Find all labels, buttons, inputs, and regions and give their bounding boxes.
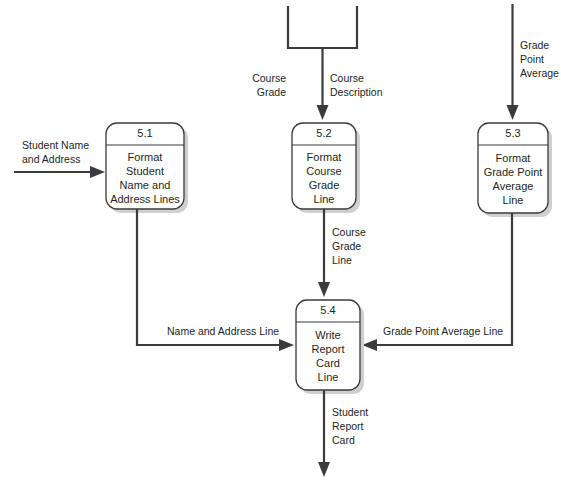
flow-label-grade-point-average: Grade Point Average: [520, 39, 559, 79]
process-5-4[interactable]: 5.4 Write Report Card Line: [296, 300, 364, 394]
process-5-2-line-3: Line: [314, 193, 335, 205]
process-5-1[interactable]: 5.1 Format Student Name and Address Line…: [106, 123, 188, 213]
flow-label-course-grade-line: Course Grade Line: [332, 226, 366, 266]
process-5-4-line-1: Report: [311, 343, 344, 355]
process-5-1-number: 5.1: [137, 127, 152, 139]
process-5-4-number: 5.4: [320, 304, 335, 316]
process-5-2-number: 5.2: [316, 127, 331, 139]
svg-text:Grade: Grade: [520, 39, 549, 51]
process-5-4-line-3: Line: [318, 371, 339, 383]
process-5-1-line-3: Address Lines: [110, 193, 180, 205]
svg-text:Grade: Grade: [332, 240, 361, 252]
svg-text:Student: Student: [332, 406, 368, 418]
flow-label-grade-point-average-line: Grade Point Average Line: [383, 325, 503, 337]
process-5-4-line-2: Card: [316, 357, 340, 369]
process-5-2[interactable]: 5.2 Format Course Grade Line: [292, 123, 360, 213]
process-5-3[interactable]: 5.3 Format Grade Point Average Line: [478, 123, 552, 217]
process-5-1-line-0: Format: [128, 151, 163, 163]
svg-text:Course: Course: [330, 72, 364, 84]
process-5-3-line-2: Average: [493, 180, 534, 192]
svg-text:Description: Description: [330, 86, 383, 98]
data-flow-diagram: Course Grade Course Description Grade Po…: [0, 0, 561, 486]
svg-text:Grade Point Average Line: Grade Point Average Line: [383, 325, 503, 337]
process-5-2-line-0: Format: [307, 151, 342, 163]
svg-text:Student Name: Student Name: [22, 139, 89, 151]
svg-text:and Address: and Address: [22, 153, 80, 165]
svg-text:Course: Course: [332, 226, 366, 238]
flow-course-grade-line: [318, 209, 330, 297]
process-5-3-line-0: Format: [496, 152, 531, 164]
process-5-3-number: 5.3: [505, 127, 520, 139]
svg-text:Name and Address Line: Name and Address Line: [167, 325, 279, 337]
flow-course-into-5-2: [317, 48, 329, 120]
flow-label-name-and-address-line: Name and Address Line: [167, 325, 279, 337]
flow-student-name-and-address-input: [14, 166, 105, 178]
flow-grade-point-average-input: [507, 4, 519, 120]
svg-text:Average: Average: [520, 67, 559, 79]
course-input-bracket: [288, 6, 357, 48]
flow-student-report-card-output: [318, 390, 330, 477]
process-5-1-line-2: Name and: [120, 179, 171, 191]
flow-label-course-grade: Course Grade: [252, 72, 286, 98]
flow-label-student-report-card: Student Report Card: [332, 406, 368, 446]
flow-label-student-name-and-address: Student Name and Address: [22, 139, 89, 165]
svg-text:Course: Course: [252, 72, 286, 84]
process-5-3-line-1: Grade Point: [484, 166, 543, 178]
diagram-canvas: Course Grade Course Description Grade Po…: [0, 0, 561, 486]
process-5-3-line-3: Line: [503, 194, 524, 206]
process-5-1-line-1: Student: [126, 165, 164, 177]
flow-label-course-description: Course Description: [330, 72, 383, 98]
svg-text:Point: Point: [520, 53, 544, 65]
process-5-4-line-0: Write: [315, 329, 340, 341]
svg-text:Card: Card: [332, 434, 355, 446]
process-5-2-line-2: Grade: [309, 179, 340, 191]
svg-text:Line: Line: [332, 254, 352, 266]
process-5-2-line-1: Course: [306, 165, 341, 177]
svg-text:Report: Report: [332, 420, 364, 432]
svg-text:Grade: Grade: [257, 86, 286, 98]
